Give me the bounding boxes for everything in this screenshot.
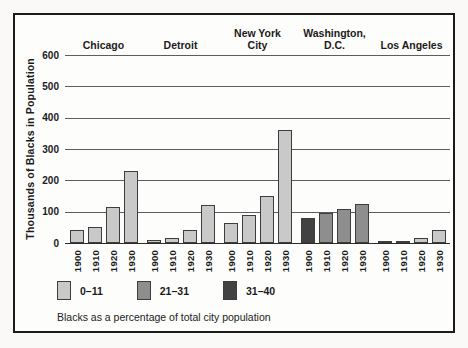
legend: 0–11 21–31 31–40 [57,281,309,300]
bar-1900 [70,230,84,243]
year-label-group: 1900191019201930 [219,244,296,278]
bar-group-new-york-city [219,55,296,243]
bar-1930 [124,171,138,243]
year-label-text: 1900 [379,250,390,272]
y-tick-label: 300 [42,145,59,155]
year-label: 1930 [124,244,138,278]
legend-label: 21–31 [160,285,189,297]
city-label: Washington, D.C. [296,27,373,51]
legend-swatch-medium [137,281,151,300]
bar-group-detroit [142,55,219,243]
year-label: 1910 [319,244,333,278]
bar-1930 [355,204,369,243]
year-label-text: 1930 [125,250,136,272]
legend-label: 31–40 [246,285,275,297]
year-label-group: 1900191019201930 [65,244,142,278]
bar-1920 [183,230,197,243]
legend-item-31-40: 31–40 [223,281,275,300]
year-label: 1910 [88,244,102,278]
bar-1900 [301,218,315,243]
year-label-text: 1920 [415,250,426,272]
y-tick-label: 500 [42,82,59,92]
year-label-text: 1920 [184,250,195,272]
y-tick-label: 0 [53,239,59,249]
year-label-text: 1920 [107,250,118,272]
legend-caption: Blacks as a percentage of total city pop… [57,311,271,323]
bar-1900 [147,240,161,243]
year-label-text: 1910 [320,250,331,272]
year-label: 1900 [147,244,161,278]
year-label-text: 1920 [338,250,349,272]
year-label-group: 1900191019201930 [296,244,373,278]
bar-group-los-angeles [373,55,450,243]
year-label-text: 1900 [225,250,236,272]
y-tick-label: 400 [42,113,59,123]
bar-1900 [378,241,392,243]
year-label: 1900 [301,244,315,278]
year-label: 1920 [183,244,197,278]
year-label-group: 1900191019201930 [373,244,450,278]
y-axis-tick-labels: 6005004003002001000 [15,55,62,243]
bar-1930 [278,130,292,243]
bar-group-chicago [65,55,142,243]
year-label: 1910 [242,244,256,278]
year-label-text: 1910 [166,250,177,272]
year-label: 1910 [165,244,179,278]
bar-1930 [201,205,215,243]
legend-swatch-light [57,281,71,300]
bar-1910 [242,215,256,243]
bar-1920 [414,238,428,243]
bar-1900 [224,223,238,243]
bar-1910 [396,241,410,244]
figure-frame: Thousands of Blacks in Population 600500… [13,13,455,333]
year-label: 1900 [378,244,392,278]
year-label-text: 1930 [433,250,444,272]
year-label: 1920 [414,244,428,278]
year-label-group: 1900191019201930 [142,244,219,278]
bar-group-washington-d-c- [296,55,373,243]
city-label: New York City [219,27,296,51]
legend-swatch-dark [223,281,237,300]
legend-item-21-31: 21–31 [137,281,189,300]
year-label: 1920 [260,244,274,278]
year-label-text: 1900 [302,250,313,272]
year-label-text: 1900 [71,250,82,272]
year-label: 1930 [201,244,215,278]
city-labels-row: ChicagoDetroitNew York CityWashington, D… [65,19,450,53]
year-label: 1920 [337,244,351,278]
y-tick-label: 200 [42,176,59,186]
year-label: 1930 [278,244,292,278]
bar-1910 [88,227,102,243]
city-label: Los Angeles [373,39,450,51]
y-tick-label: 100 [42,207,59,217]
year-label-text: 1930 [356,250,367,272]
y-tick-label: 600 [42,51,59,61]
legend-item-0-11: 0–11 [57,281,103,300]
year-label-text: 1930 [202,250,213,272]
bar-1920 [260,196,274,243]
year-label-text: 1910 [89,250,100,272]
legend-label: 0–11 [80,285,103,297]
year-label: 1920 [106,244,120,278]
bar-1920 [106,207,120,243]
city-label: Chicago [65,39,142,51]
city-label: Detroit [142,39,219,51]
bar-1910 [319,213,333,243]
year-label: 1930 [432,244,446,278]
year-label-text: 1900 [148,250,159,272]
year-label-text: 1920 [261,250,272,272]
year-label-text: 1910 [397,250,408,272]
year-label: 1910 [396,244,410,278]
year-label: 1930 [355,244,369,278]
year-label-text: 1930 [279,250,290,272]
year-label: 1900 [70,244,84,278]
bar-1920 [337,209,351,243]
x-axis-year-labels: 1900191019201930190019101920193019001910… [65,244,450,278]
year-label-text: 1910 [243,250,254,272]
year-label: 1900 [224,244,238,278]
plot-area [65,55,450,243]
bar-1910 [165,238,179,243]
bar-1930 [432,230,446,243]
